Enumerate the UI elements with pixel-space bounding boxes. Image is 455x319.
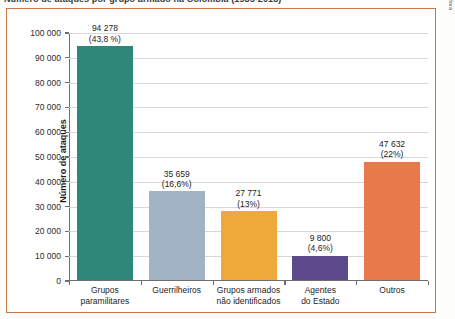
y-tick-label: 90 000	[35, 53, 61, 63]
bar-value-percent: (43,8 %)	[89, 34, 121, 44]
gridline	[69, 33, 428, 34]
bar-value-percent: (13%)	[236, 199, 262, 209]
y-tick-label: 70 000	[35, 102, 61, 112]
bar-value-label: 27 771(13%)	[236, 188, 262, 209]
y-tick-label: 0	[56, 276, 61, 286]
bar-value-label: 47 632(22%)	[379, 139, 405, 160]
page-title: Número de ataques por grupo armado na Co…	[4, 0, 281, 4]
plot-area: 010 00020 00030 00040 00050 00060 00070 …	[69, 33, 428, 281]
y-tick-mark	[65, 32, 69, 33]
bar-value-number: 94 278	[92, 23, 118, 33]
bar-value-percent: (22%)	[379, 149, 405, 159]
chart-page: Número de ataques por grupo armado na Co…	[0, 0, 455, 319]
bar-value-number: 27 771	[236, 188, 262, 198]
x-axis-line	[69, 280, 428, 281]
y-tick-mark	[65, 206, 69, 207]
bar-value-number: 47 632	[379, 139, 405, 149]
bar-value-label: 35 659(16,6%)	[162, 169, 192, 190]
bar: 35 659(16,6%)	[149, 191, 205, 279]
y-tick-label: 30 000	[35, 202, 61, 212]
bar: 94 278(43,8 %)	[77, 46, 133, 280]
y-tick-mark	[65, 57, 69, 58]
y-tick-mark	[65, 107, 69, 108]
y-tick-label: 40 000	[35, 177, 61, 187]
y-tick-label: 10 000	[35, 251, 61, 261]
x-category-label: Grupos paramilitares	[69, 285, 141, 307]
photo-credit: Luiz Fernando Rubio/Arquivo da editora	[448, 0, 454, 10]
y-tick-label: 50 000	[35, 152, 61, 162]
y-tick-mark	[65, 82, 69, 83]
plot-inner: 010 00020 00030 00040 00050 00060 00070 …	[69, 33, 428, 281]
bar: 9 800(4,6%)	[292, 256, 348, 280]
x-tick-mark	[428, 281, 429, 285]
y-tick-label: 80 000	[35, 78, 61, 88]
x-category-label: Outros	[356, 285, 428, 296]
bar-value-number: 9 800	[310, 233, 331, 243]
bar-value-number: 35 659	[164, 169, 190, 179]
x-category-label: Grupos armados não identificados	[213, 285, 285, 307]
chart-frame: Número de ataques 010 00020 00030 00040 …	[6, 8, 436, 313]
bar-value-percent: (4,6%)	[308, 243, 333, 253]
bar: 27 771(13%)	[221, 211, 277, 280]
y-tick-mark	[65, 156, 69, 157]
y-tick-label: 20 000	[35, 226, 61, 236]
x-category-label: Agentes do Estado	[284, 285, 356, 307]
y-tick-mark	[65, 256, 69, 257]
bar-value-label: 9 800(4,6%)	[308, 233, 333, 254]
y-tick-label: 100 000	[30, 28, 61, 38]
bar: 47 632(22%)	[364, 162, 420, 280]
bar-value-percent: (16,6%)	[162, 179, 192, 189]
y-tick-label: 60 000	[35, 127, 61, 137]
bar-value-label: 94 278(43,8 %)	[89, 23, 121, 44]
y-tick-mark	[65, 231, 69, 232]
y-tick-mark	[65, 181, 69, 182]
clipped-title-strip: Número de ataques por grupo armado na Co…	[0, 0, 455, 7]
y-tick-mark	[65, 132, 69, 133]
x-category-label: Guerrilheiros	[141, 285, 213, 296]
